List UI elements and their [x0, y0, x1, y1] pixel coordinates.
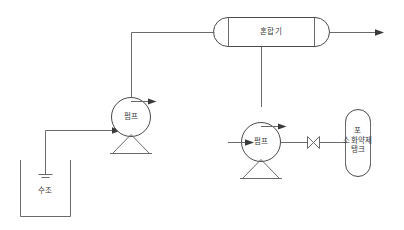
- gate-valve-symbol: [308, 137, 320, 149]
- water-tank-suction-pipe: [39, 152, 53, 178]
- foam-pump-shape: [240, 123, 282, 179]
- foam-tank-label-line-1: 포: [340, 126, 376, 136]
- water-suction-line: [46, 131, 121, 153]
- mixer-label: 혼합기: [227, 27, 315, 36]
- foam-tank-label-line-2: 소화약제: [340, 136, 376, 146]
- foam-pump-label: 펌프: [243, 137, 279, 146]
- foam-tank-label: 포 소화약제 탱크: [340, 126, 376, 155]
- water-tank-label: 수조: [27, 186, 63, 195]
- diagram-canvas: 혼합기 펌프 펌프 수조 포 소화약제 탱크: [0, 0, 404, 230]
- foam-tank-label-line-3: 탱크: [340, 145, 376, 155]
- mixer-outlet-arrow: [375, 29, 384, 35]
- water-pump-discharge-arrow: [148, 99, 157, 105]
- water-discharge-riser: [132, 33, 214, 98]
- water-pump-label: 펌프: [113, 112, 149, 121]
- water-pump-shape: [110, 98, 152, 154]
- foam-pump-discharge-arrow: [278, 124, 287, 130]
- process-flow-diagram: [0, 0, 404, 230]
